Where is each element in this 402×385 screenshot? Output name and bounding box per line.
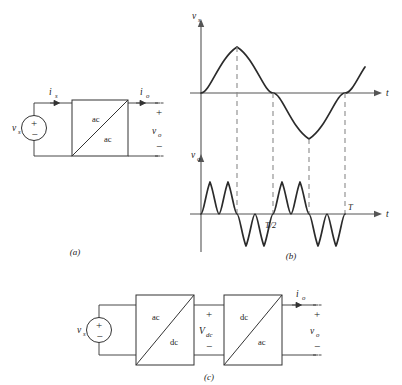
- tick-label-period: T: [348, 202, 354, 212]
- output-minus-c: −: [314, 340, 320, 352]
- output-current-arrow-c: [292, 302, 302, 307]
- rectifier-bottom-label: dc: [170, 337, 178, 347]
- dc-link-sub: dc: [206, 331, 212, 338]
- rectifier-diagonal-c: [136, 295, 194, 365]
- inverter-top-label: dc: [240, 312, 248, 322]
- output-current-arrow-a: [136, 100, 146, 105]
- output-voltage-sub-c: o: [316, 331, 320, 338]
- source-sub-c: s: [83, 330, 86, 337]
- output-plus-c: +: [314, 308, 320, 320]
- bottom-plot-y-sub: o: [197, 155, 201, 162]
- output-current-label-c: i: [296, 289, 299, 299]
- caption-c: (c): [204, 372, 214, 382]
- converter-block-a-top-label: ac: [92, 114, 100, 124]
- output-voltage-label-a: v: [152, 126, 157, 136]
- top-plot-y-label: v: [192, 11, 197, 21]
- converter-diagonal-a: [72, 100, 128, 156]
- bottom-plot-y-label: v: [191, 150, 196, 160]
- input-current-sub-a: s: [55, 92, 58, 99]
- top-plot-y-sub: s: [198, 16, 201, 23]
- inverter-bottom-label: ac: [258, 337, 266, 347]
- dc-link-plus: +: [206, 308, 212, 320]
- caption-a: (a): [70, 247, 81, 257]
- source-label-a: v: [12, 123, 17, 133]
- input-current-arrow-a: [50, 100, 60, 105]
- tick-label-half-period: T/2: [265, 220, 277, 230]
- bottom-plot-x-axis-arrowhead: [374, 211, 382, 217]
- dc-link-minus: −: [206, 340, 212, 352]
- figure-canvas: ac ac i s + − v s i o + − v o (a): [0, 0, 402, 385]
- bottom-plot-x-label: t: [386, 209, 389, 219]
- caption-b: (b): [286, 251, 297, 261]
- figure-ac-ac-conversion: ac ac i s + − v s i o + − v o (a): [0, 0, 402, 385]
- source-minus-c: −: [97, 330, 103, 342]
- inverter-diagonal-c: [224, 295, 282, 365]
- diagram-b: v s t v o t T/2 T (b): [190, 11, 389, 261]
- output-voltage-label-c: v: [310, 326, 315, 336]
- output-current-sub-a: o: [146, 92, 150, 99]
- diagram-c: + − v s ac dc + − V dc dc ac i o + −: [77, 289, 322, 382]
- input-current-label-a: i: [49, 87, 52, 97]
- output-current-label-a: i: [140, 87, 143, 97]
- top-plot-x-label: t: [386, 88, 389, 98]
- output-minus-a: −: [156, 140, 162, 152]
- top-plot-x-axis-arrowhead: [374, 90, 382, 96]
- source-minus-a: −: [32, 128, 38, 140]
- source-label-c: v: [77, 325, 82, 335]
- diagram-a: ac ac i s + − v s i o + − v o (a): [12, 87, 164, 257]
- output-current-sub-c: o: [302, 294, 306, 301]
- source-sub-a: s: [18, 128, 21, 135]
- dc-link-label: V: [199, 326, 206, 336]
- rectifier-top-label: ac: [152, 312, 160, 322]
- output-plus-a: +: [156, 106, 162, 118]
- output-voltage-sub-a: o: [158, 131, 162, 138]
- converter-block-a-bottom-label: ac: [104, 134, 112, 144]
